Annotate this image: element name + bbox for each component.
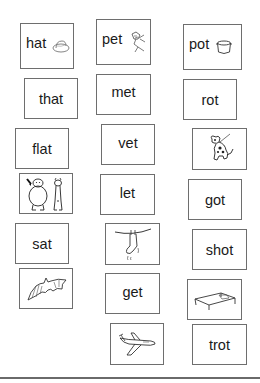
card-word: hat <box>26 35 46 51</box>
cot-icon <box>193 289 237 311</box>
bat-icon <box>24 274 68 304</box>
pot-icon <box>215 39 233 55</box>
wet-sock-on-line-icon <box>113 226 153 262</box>
card-spotted-dog[interactable] <box>192 128 247 170</box>
card-let[interactable]: let <box>100 174 155 215</box>
card-met[interactable]: met <box>96 74 151 115</box>
card-sat[interactable]: sat <box>15 223 69 264</box>
card-word: met <box>111 84 135 100</box>
card-fat-thin[interactable] <box>19 173 73 214</box>
card-pot[interactable]: pot <box>183 24 242 70</box>
hat-icon <box>52 39 70 53</box>
card-that[interactable]: that <box>24 78 78 119</box>
card-word: pet <box>102 31 122 47</box>
card-cot[interactable] <box>187 279 242 320</box>
card-trot[interactable]: trot <box>192 324 247 365</box>
card-word: sat <box>32 236 51 252</box>
card-word: shot <box>206 242 233 258</box>
card-word: let <box>120 185 135 201</box>
card-got[interactable]: got <box>188 179 242 220</box>
card-word: flat <box>32 141 51 157</box>
card-word: pot <box>189 36 209 52</box>
card-word: that <box>39 91 63 107</box>
fat-and-thin-figures-icon <box>24 176 68 212</box>
card-word: rot <box>202 92 219 108</box>
page-divider <box>0 377 260 379</box>
card-word: got <box>205 192 225 208</box>
card-word: get <box>122 284 142 300</box>
pet-dog-icon <box>128 30 148 54</box>
card-flat[interactable]: flat <box>15 128 69 169</box>
card-jet[interactable] <box>110 323 164 365</box>
card-shot[interactable]: shot <box>192 229 247 270</box>
card-get[interactable]: get <box>105 273 160 314</box>
card-word: trot <box>209 337 230 353</box>
card-hat[interactable]: hat <box>20 23 74 69</box>
card-rot[interactable]: rot <box>183 79 237 120</box>
spotted-dog-icon <box>203 133 237 165</box>
card-bat[interactable] <box>19 268 73 309</box>
card-wet-sock[interactable] <box>105 223 160 265</box>
card-pet[interactable]: pet <box>96 19 151 65</box>
card-vet[interactable]: vet <box>101 124 155 165</box>
jet-plane-icon <box>117 330 157 358</box>
card-word: vet <box>118 135 137 151</box>
